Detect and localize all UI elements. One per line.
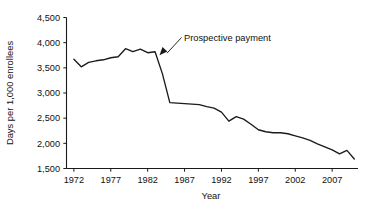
x-tick-label: 1992 [211, 175, 231, 185]
annotation-arrow-icon [159, 47, 167, 55]
y-tick-label: 2,500 [37, 113, 60, 123]
y-axis-title: Days per 1,000 enrollees [4, 41, 15, 146]
x-tick-label: 1987 [174, 175, 194, 185]
y-tick-label: 3,000 [37, 88, 60, 98]
y-tick-label: 3,500 [37, 63, 60, 73]
y-tick-label: 4,500 [37, 13, 60, 23]
y-tick-label: 4,000 [37, 38, 60, 48]
y-tick-label: 2,000 [37, 139, 60, 149]
annotation-prospective-payment: Prospective payment [159, 33, 271, 55]
annotation-label: Prospective payment [184, 33, 271, 43]
x-axis-title: Year [202, 190, 221, 201]
y-axis: 1,5002,0002,5003,0003,5004,0004,500 [37, 13, 67, 174]
chart-figure: 1,5002,0002,5003,0003,5004,0004,500 1972… [0, 0, 376, 204]
x-tick-label-group: 19721977198219871992199720022007 [64, 175, 343, 185]
x-tick-label: 1977 [101, 175, 121, 185]
x-axis: 19721977198219871992199720022007 [64, 169, 358, 185]
x-tick-label: 2002 [285, 175, 305, 185]
line-chart-canvas: 1,5002,0002,5003,0003,5004,0004,500 1972… [0, 0, 376, 204]
x-tick-label: 2007 [322, 175, 342, 185]
annotation-leader-line [167, 38, 182, 54]
data-line-series-0 [74, 49, 354, 159]
y-tick-label: 1,500 [37, 164, 60, 174]
plot-series-group [74, 49, 354, 159]
y-tick-label-group: 1,5002,0002,5003,0003,5004,0004,500 [37, 13, 60, 174]
x-tick-label: 1972 [64, 175, 84, 185]
x-tick-label: 1997 [248, 175, 268, 185]
x-tick-label: 1982 [137, 175, 157, 185]
